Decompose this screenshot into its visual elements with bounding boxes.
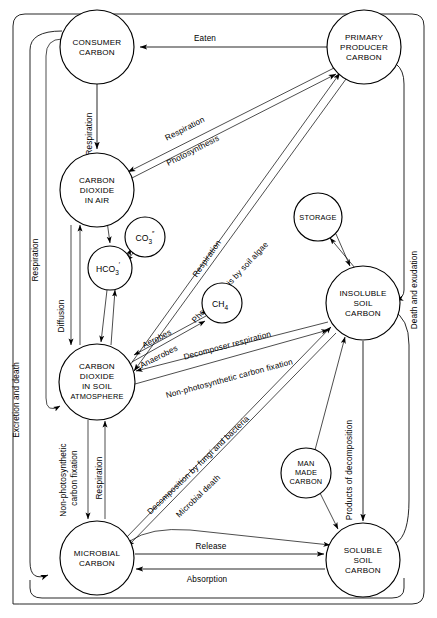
microbial-carbon-circle[interactable] <box>60 521 134 595</box>
primary-producer-label-line3: CARBON <box>346 53 382 62</box>
carbonate-subscript: 3 <box>148 238 152 245</box>
label-respiration-producer-air: Respiration <box>164 115 207 143</box>
bicarbonate-main: HCO <box>96 264 115 274</box>
insoluble-label-line2: SOIL <box>353 299 373 308</box>
node-methane[interactable]: CH4 <box>202 283 242 323</box>
carbon-cycle-diagram: Eaten Respiration Respiration Photosynth… <box>0 0 437 618</box>
insoluble-label-line3: CARBON <box>345 309 381 318</box>
node-carbonate[interactable]: CO3″ <box>125 217 165 257</box>
carbon-cycle-canvas: Eaten Respiration Respiration Photosynth… <box>0 0 437 618</box>
methane-subscript: 4 <box>224 304 228 311</box>
primary-producer-label-line1: PRIMARY <box>345 33 384 42</box>
soluble-label-line2: SOIL <box>353 556 373 565</box>
edge-manmade-to-soluble <box>320 493 338 529</box>
methane-main: CH <box>212 299 224 309</box>
primary-producer-label-line2: PRODUCER <box>340 43 388 52</box>
co2-soil-label-line3: IN SOIL <box>82 382 112 391</box>
edge-respiration-producer-air <box>128 68 334 172</box>
edge-soluble-to-insoluble <box>392 310 409 543</box>
edge-insoluble-to-storage <box>336 234 350 266</box>
label-diffusion: Diffusion <box>57 299 66 332</box>
node-co2-in-air[interactable]: CARBON DIOXIDE IN AIR <box>60 153 134 227</box>
node-bicarbonate[interactable]: HCO3′ <box>88 246 132 290</box>
node-storage[interactable]: STORAGE <box>294 193 342 241</box>
node-co2-soil-atmosphere[interactable]: CARBON DIOXIDE IN SOIL ATMOSPHERE <box>59 344 135 420</box>
label-products-of-decomposition: Products of decomposition <box>345 420 354 521</box>
label-respiration-left-rail: Respiration <box>31 238 40 281</box>
soluble-label-line3: CARBON <box>345 566 381 575</box>
co2-soil-label-line4: ATMOSPHERE <box>70 392 123 401</box>
label-respiration-microbial: Respiration <box>95 456 104 499</box>
microbial-label-line2: CARBON <box>79 559 115 568</box>
node-soluble-soil-carbon[interactable]: SOLUBLE SOIL CARBON <box>326 523 400 597</box>
edge-photosynthesis-air-producer <box>130 74 336 179</box>
label-excretion-and-death: Excretion and death <box>12 362 21 438</box>
label-death-and-exudation: Death and exudation <box>410 250 419 329</box>
label-non-photosynthetic-carbon-fixation-upper: Non-photosynthetic carbon fixation <box>165 357 294 400</box>
label-respiration-soil-producer: Respiration <box>191 238 223 279</box>
label-eaten: Eaten <box>194 34 216 43</box>
consumer-carbon-circle[interactable] <box>60 10 134 84</box>
co2-in-air-label-line3: IN AIR <box>85 196 110 205</box>
label-absorption: Absorption <box>187 575 228 584</box>
consumer-carbon-label-line1: CONSUMER <box>73 38 122 47</box>
consumer-carbon-label-line2: CARBON <box>79 48 115 57</box>
node-primary-producer-carbon[interactable]: PRIMARY PRODUCER CARBON <box>327 10 401 84</box>
bicarbonate-subscript: 3 <box>115 269 119 276</box>
node-man-made-carbon[interactable]: MAN MADE CARBON <box>281 448 331 498</box>
co2-in-air-label-line2: DIOXIDE <box>80 186 115 195</box>
edge-storage-to-insoluble <box>330 238 355 268</box>
carbonate-main: CO <box>136 233 149 243</box>
label-carbon-fixation-left: carbon fixation <box>70 450 79 506</box>
man-made-label-line1: MAN <box>297 459 314 468</box>
insoluble-label-line1: INSOLUBLE <box>339 289 387 298</box>
node-microbial-carbon[interactable]: MICROBIAL CARBON <box>60 521 134 595</box>
node-insoluble-soil-carbon[interactable]: INSOLUBLE SOIL CARBON <box>326 266 400 340</box>
node-consumer-carbon[interactable]: CONSUMER CARBON <box>60 10 134 84</box>
microbial-label-line1: MICROBIAL <box>74 549 121 558</box>
edge-bicarbonate-to-soil <box>101 290 107 342</box>
edge-respiration-left-rail <box>46 39 62 409</box>
edge-soil-to-bicarbonate <box>111 290 115 345</box>
co2-soil-label-line2: DIOXIDE <box>80 372 115 381</box>
edge-microbial-fan-to-soluble <box>130 529 330 545</box>
label-decomposer-respiration: Decomposer respiration <box>183 329 273 361</box>
co2-soil-label-line1: CARBON <box>79 362 115 371</box>
storage-label: STORAGE <box>299 213 336 222</box>
edge-death-and-exudation <box>396 64 404 300</box>
label-non-photosynthetic-left: Non-photosynthetic <box>59 443 68 516</box>
man-made-label-line3: CARBON <box>290 477 323 486</box>
co2-in-air-label-line1: CARBON <box>79 176 115 185</box>
edge-manmade-to-insoluble <box>315 337 345 450</box>
man-made-label-line2: MADE <box>295 468 317 477</box>
label-respiration-consumer-air: Respiration <box>85 112 94 155</box>
label-release: Release <box>195 542 226 551</box>
soluble-label-line1: SOLUBLE <box>344 546 383 555</box>
